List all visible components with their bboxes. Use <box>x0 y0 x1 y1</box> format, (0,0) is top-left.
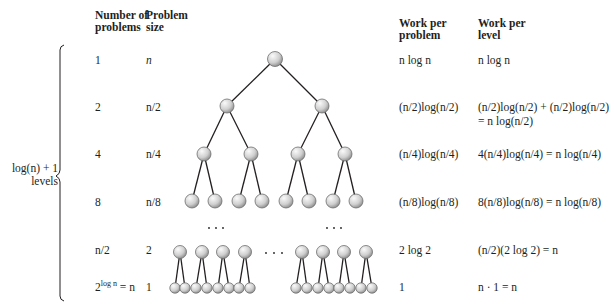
levels-brace <box>56 45 64 301</box>
recursion-tree-diagram <box>0 0 614 307</box>
tree-node-root <box>268 52 283 67</box>
tree-nodes <box>170 52 377 294</box>
